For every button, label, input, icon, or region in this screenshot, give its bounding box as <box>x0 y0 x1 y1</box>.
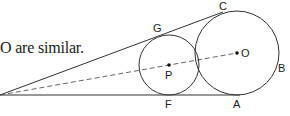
upper-tangent-line <box>0 12 223 95</box>
center-point-p <box>167 63 171 67</box>
label-f: F <box>165 98 172 110</box>
label-o: O <box>241 47 250 59</box>
label-c: C <box>219 0 227 12</box>
center-point-o <box>235 51 239 55</box>
tangent-circles-diagram: G C P O B F A <box>0 0 290 116</box>
label-b: B <box>278 62 285 74</box>
label-a: A <box>233 98 241 110</box>
center-dashed-line <box>0 53 237 95</box>
label-g: G <box>153 22 162 34</box>
label-p: P <box>165 69 172 81</box>
